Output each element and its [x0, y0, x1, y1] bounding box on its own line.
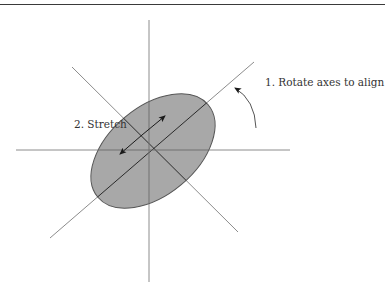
rotate-label: 1. Rotate axes to align: [265, 76, 385, 88]
stretch-label: 2. Stretch: [74, 118, 127, 130]
rotate-arc-arrow: [235, 88, 256, 128]
ellipse: [70, 71, 237, 231]
ellipse-rotation-diagram: 1. Rotate axes to align 2. Stretch: [0, 0, 385, 289]
